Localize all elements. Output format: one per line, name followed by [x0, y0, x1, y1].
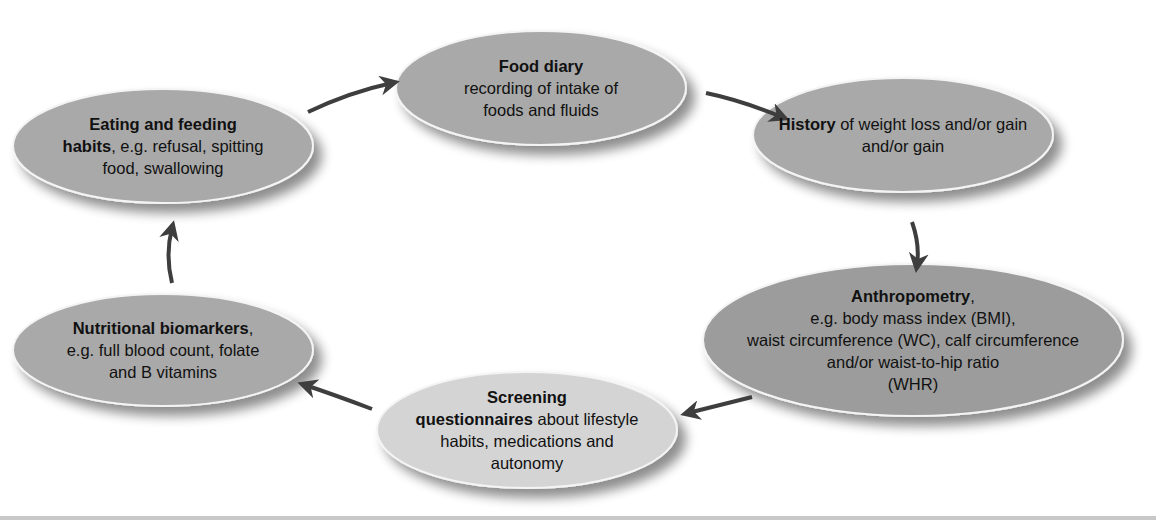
node-anthropometry: Anthropometry, e.g. body mass index (BMI…	[710, 278, 1116, 402]
node-history: History of weight loss and/or gain and/o…	[758, 95, 1048, 175]
arrow-eating-to-food-diary	[308, 83, 392, 112]
node-food-diary-line-2: foods and fluids	[483, 101, 599, 119]
node-history-title: History	[779, 115, 836, 133]
node-eating-line-0: food, swallowing	[102, 159, 223, 177]
node-nutritional-line-0: e.g. full blood count, folate	[67, 341, 260, 359]
node-history-rest: of weight loss and/or gain	[836, 115, 1028, 133]
node-nutritional-rest: ,	[249, 319, 254, 337]
bottom-divider	[0, 516, 1156, 520]
node-eating-habits: Eating and feeding habits, e.g. refusal,…	[16, 106, 310, 186]
node-nutritional-biomarkers: Nutritional biomarkers, e.g. full blood …	[16, 310, 310, 390]
arrow-nutritional-to-eating	[169, 228, 173, 283]
node-anthropometry-line-3: (WHR)	[888, 375, 938, 393]
node-eating-title: Eating and feeding	[89, 115, 237, 133]
node-eating-rest: , e.g. refusal, spitting	[111, 137, 263, 155]
node-food-diary: Food diary recording of intake of foods …	[398, 38, 684, 138]
node-nutritional-line-1: and B vitamins	[109, 363, 217, 381]
node-food-diary-line-1: recording of intake of	[464, 79, 618, 97]
arrow-history-to-anthropometry	[912, 222, 918, 265]
node-screening-line-1: autonomy	[491, 454, 563, 472]
node-anthropometry-rest: ,	[970, 287, 975, 305]
node-anthropometry-line-0: e.g. body mass index (BMI),	[810, 309, 1015, 327]
node-anthropometry-line-2: and/or waist-to-hip ratio	[827, 353, 999, 371]
arrow-screening-to-nutritional	[305, 385, 372, 409]
node-screening-title: Screening	[487, 388, 567, 406]
node-screening-line-0: habits, medications and	[440, 432, 613, 450]
node-eating-title-2: habits	[63, 137, 112, 155]
node-anthropometry-line-1: waist circumference (WC), calf circumfer…	[747, 331, 1079, 349]
node-screening: Screening questionnaires about lifestyle…	[380, 376, 674, 484]
node-nutritional-title: Nutritional biomarkers	[73, 319, 249, 337]
node-anthropometry-title: Anthropometry	[851, 287, 970, 305]
node-food-diary-title: Food diary	[499, 57, 583, 75]
node-screening-rest: about lifestyle	[533, 410, 638, 428]
node-history-line-1: and/or gain	[862, 137, 945, 155]
node-screening-title-2: questionnaires	[416, 410, 533, 428]
